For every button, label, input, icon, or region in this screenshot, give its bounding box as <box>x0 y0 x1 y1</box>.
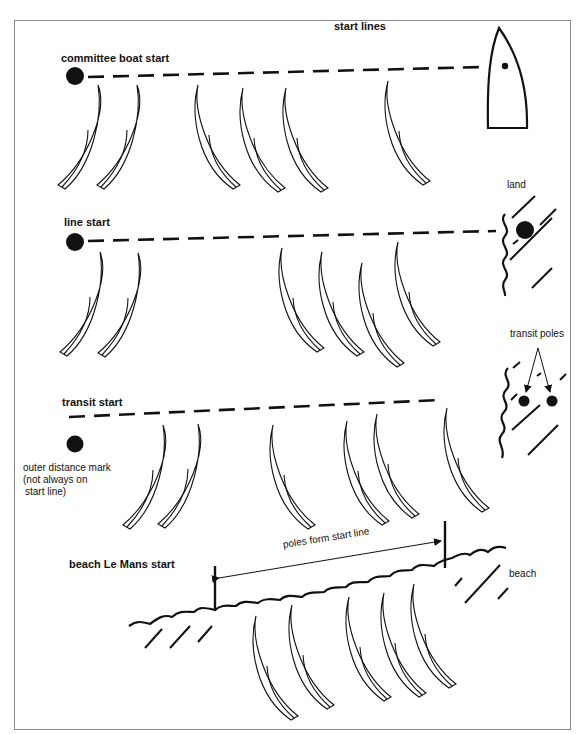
dinghy-icon <box>123 425 166 529</box>
diagram-title: start lines <box>334 20 386 33</box>
committee-boat-start-label: committee boat start <box>61 52 169 65</box>
dinghy-icon <box>319 252 364 356</box>
dinghy-icon <box>395 242 440 346</box>
dinghy-icon <box>58 85 101 189</box>
start-lines-diagram <box>0 0 588 734</box>
dinghy-icon <box>283 88 328 192</box>
line-start-label: line start <box>64 216 110 229</box>
line-start-section <box>60 196 556 367</box>
transit-start-label: transit start <box>62 396 123 409</box>
outer-distance-mark-note-2: start line) <box>25 485 66 498</box>
pin-buoy-icon <box>66 67 84 85</box>
start-line <box>69 400 440 417</box>
dinghy-icon <box>289 605 334 709</box>
dinghy-icon <box>359 263 404 367</box>
land-label: land <box>507 178 526 191</box>
start-line <box>88 231 496 241</box>
dinghy-icon <box>240 88 285 192</box>
dinghy-icon <box>411 584 456 688</box>
dinghy-icon <box>98 253 141 357</box>
transit-start-section <box>67 348 567 529</box>
transit-pole-icon <box>547 396 558 407</box>
pin-buoy-icon <box>66 233 84 251</box>
committee-boat-icon <box>488 28 527 128</box>
dinghy-icon <box>385 81 430 185</box>
transit-pole-icon <box>519 396 530 407</box>
dinghy-icon <box>374 414 419 518</box>
shoreline-icon <box>503 214 507 296</box>
shoreline-icon <box>500 368 509 458</box>
dinghy-icon <box>270 425 315 529</box>
beach-label: beach <box>509 567 536 580</box>
start-line <box>88 67 484 77</box>
transit-poles-label: transit poles <box>510 327 564 340</box>
double-arrow <box>219 541 441 578</box>
dinghy-icon <box>195 85 240 189</box>
dinghy-icon <box>346 597 391 701</box>
dinghy-icon <box>60 252 103 356</box>
dinghy-icon <box>344 421 389 525</box>
dinghy-icon <box>97 85 140 189</box>
beach-le-mans-start-label: beach Le Mans start <box>69 558 175 571</box>
outer-distance-mark-icon <box>67 436 84 453</box>
dinghy-icon <box>444 408 489 512</box>
pointer-arrow <box>538 348 550 392</box>
pointer-arrow <box>526 348 538 392</box>
dinghy-icon <box>279 248 324 352</box>
beach-le-mans-start-section <box>129 521 508 720</box>
dinghy-icon <box>253 616 298 720</box>
dinghy-icon <box>381 593 426 697</box>
beach-shoreline-icon <box>129 547 506 626</box>
shore-mark-icon <box>516 221 534 239</box>
